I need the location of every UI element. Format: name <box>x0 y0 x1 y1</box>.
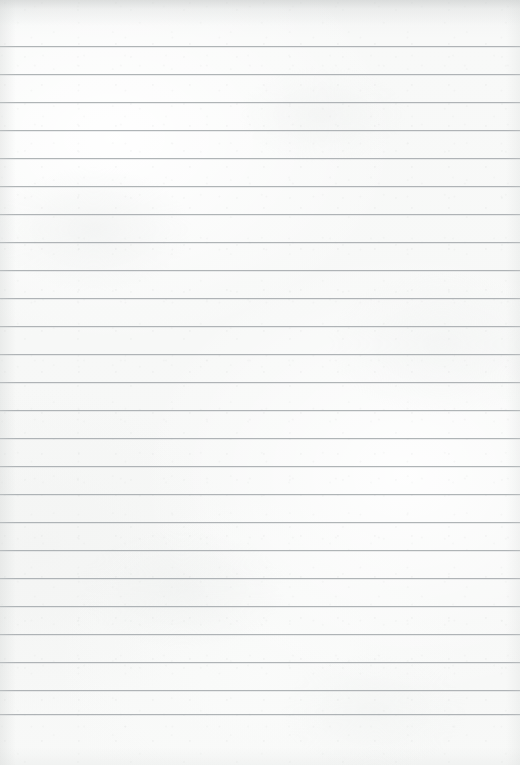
writing-area[interactable] <box>0 0 520 765</box>
paper-page <box>0 0 520 765</box>
